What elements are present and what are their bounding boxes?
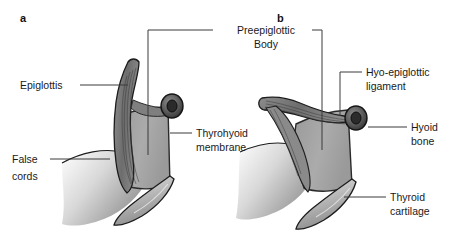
label-preepiglottic-body: Preepiglottic Body — [237, 24, 295, 50]
anatomy-figure: a b Preepiglottic Body Epiglottis Thyroh… — [0, 0, 459, 245]
label-hyoid-bone-line1: Hyoid — [411, 121, 438, 133]
hyoid-bone-shape-b — [345, 106, 367, 130]
leader-preepiglottic-right — [312, 30, 322, 108]
panel-letter-a: a — [20, 12, 27, 24]
label-hyo-epiglottic-ligament-line2: ligament — [366, 80, 406, 92]
label-preepiglottic-body-line1: Preepiglottic — [237, 24, 295, 36]
panel-b-illustration — [236, 97, 367, 229]
label-thyrohyoid-membrane-line2: membrane — [196, 141, 246, 153]
label-hyo-epiglottic-ligament: Hyo-epiglottic ligament — [366, 66, 430, 92]
hyoid-bone-shape-a — [161, 94, 183, 118]
label-thyrohyoid-membrane: Thyrohyoid membrane — [196, 127, 248, 153]
label-hyoid-bone: Hyoid bone — [411, 121, 438, 147]
label-hyo-epiglottic-ligament-line1: Hyo-epiglottic — [366, 66, 430, 78]
label-false-cords-line1: False — [12, 153, 38, 165]
label-false-cords-line2: cords — [12, 170, 38, 182]
figure-canvas: a b Preepiglottic Body Epiglottis Thyroh… — [0, 0, 459, 245]
label-thyroid-cartilage-line1: Thyroid — [390, 191, 425, 203]
leader-preepiglottic-left — [148, 30, 213, 106]
label-thyroid-cartilage: Thyroid cartilage — [390, 191, 430, 217]
label-epiglottis-line1: Epiglottis — [20, 79, 63, 91]
label-epiglottis: Epiglottis — [20, 79, 63, 91]
label-thyroid-cartilage-line2: cartilage — [390, 205, 430, 217]
label-thyrohyoid-membrane-line1: Thyrohyoid — [196, 127, 248, 139]
panel-letter-b: b — [277, 12, 284, 24]
label-hyoid-bone-line2: bone — [411, 135, 435, 147]
label-preepiglottic-body-line2: Body — [254, 38, 279, 50]
panel-a-illustration — [62, 59, 183, 226]
label-false-cords: False cords — [12, 153, 38, 182]
